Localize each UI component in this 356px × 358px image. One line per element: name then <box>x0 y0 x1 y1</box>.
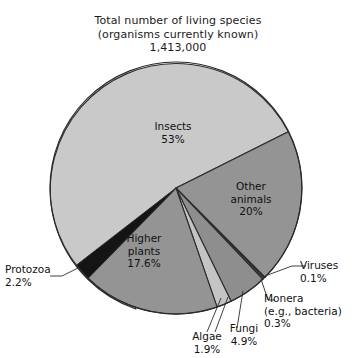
callout-label-monera-line-1: Monera <box>264 292 342 305</box>
callout-label-fungi-value: 4.9% <box>221 335 267 348</box>
slice-label-higher-plants-value: 17.6% <box>106 257 182 270</box>
slice-label-higher-plants-line-1: Higher <box>106 232 182 245</box>
callout-label-monera-line-2: (e.g., bacteria) <box>264 305 342 318</box>
slice-label-insects: Insects 53% <box>118 120 228 145</box>
callout-label-viruses: Viruses 0.1% <box>300 259 338 284</box>
callout-label-viruses-value: 0.1% <box>300 272 338 285</box>
callout-label-protozoa-name: Protozoa <box>5 263 51 276</box>
pie-chart-figure: Total number of living species (organism… <box>0 0 356 358</box>
callout-label-protozoa: Protozoa 2.2% <box>5 263 51 288</box>
leader-line-protozoa <box>50 268 78 276</box>
slice-label-other-animals: Other animals 20% <box>215 180 287 218</box>
callout-label-fungi-name: Fungi <box>221 322 267 335</box>
callout-label-monera: Monera (e.g., bacteria) 0.3% <box>264 292 342 330</box>
callout-label-monera-value: 0.3% <box>264 317 342 330</box>
slice-label-other-animals-line-2: animals <box>215 193 287 206</box>
slice-label-higher-plants: Higher plants 17.6% <box>106 232 182 270</box>
callout-label-viruses-name: Viruses <box>300 259 338 272</box>
slice-label-insects-name: Insects <box>118 120 228 133</box>
slice-label-other-animals-value: 20% <box>215 205 287 218</box>
slice-label-other-animals-line-1: Other <box>215 180 287 193</box>
callout-label-fungi: Fungi 4.9% <box>221 322 267 347</box>
slice-label-insects-value: 53% <box>118 133 228 146</box>
callout-label-protozoa-value: 2.2% <box>5 276 51 289</box>
slice-label-higher-plants-line-2: plants <box>106 245 182 258</box>
